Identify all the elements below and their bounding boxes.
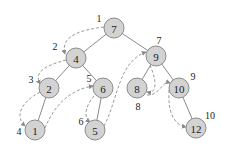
node-label: 5 [92, 125, 98, 137]
node-label: 9 [153, 51, 159, 63]
tree-node-2: 2 [39, 78, 59, 98]
traversal-order-label: 3 [29, 74, 34, 85]
tree-nodes: 749268101512 [25, 18, 206, 140]
tree-node-4: 4 [66, 48, 86, 68]
traversal-order-label: 1 [97, 13, 102, 24]
node-label: 2 [46, 83, 52, 95]
traversal-order-label: 4 [17, 126, 22, 137]
traversal-arrow [147, 83, 170, 95]
node-label: 8 [134, 83, 140, 95]
node-label: 12 [191, 123, 202, 135]
tree-node-6: 6 [93, 78, 113, 98]
tree-node-9: 9 [146, 46, 166, 66]
node-label: 1 [32, 125, 38, 137]
traversal-arrow [86, 96, 94, 122]
traversal-order-label: 10 [205, 110, 215, 121]
tree-node-12: 12 [186, 118, 206, 138]
traversal-order-label: 8 [136, 101, 141, 112]
traversal-order-label: 6 [79, 116, 84, 127]
traversal-order-label: 9 [191, 71, 196, 82]
tree-node-1: 1 [25, 120, 45, 140]
tree-node-7: 7 [104, 18, 124, 38]
traversal-order-label: 2 [53, 41, 58, 52]
traversal-order-label: 7 [157, 35, 162, 46]
traversal-order-label: 5 [87, 73, 92, 84]
tree-diagram: 749268101512 12735894610 [0, 0, 237, 150]
tree-canvas: 749268101512 12735894610 [0, 0, 237, 150]
node-label: 7 [111, 23, 117, 35]
tree-node-8: 8 [127, 78, 147, 98]
node-label: 4 [73, 53, 79, 65]
tree-node-10: 10 [169, 78, 189, 98]
node-label: 6 [100, 83, 106, 95]
tree-node-5: 5 [85, 120, 105, 140]
node-label: 10 [174, 83, 186, 95]
